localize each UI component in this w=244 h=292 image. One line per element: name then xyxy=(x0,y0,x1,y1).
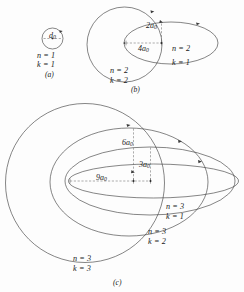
label-b-n2-k1-n: n = 2 xyxy=(172,45,190,54)
label-a-k1: k = 1 xyxy=(37,61,55,70)
label-3a0-sub: 0 xyxy=(147,163,150,169)
label-4a0-sub: 0 xyxy=(146,47,149,53)
panel-b-group xyxy=(87,7,218,82)
focus-dot-b-nucleus xyxy=(161,42,163,44)
label-4a0-main: 4a xyxy=(138,44,146,53)
label-2a0: 2a0 xyxy=(146,22,157,30)
label-9a0-main: 9a xyxy=(96,173,104,182)
label-c-n3-k3-n: n = 3 xyxy=(73,255,91,264)
label-6a0: 6a0 xyxy=(122,139,133,147)
focus-dot-b-left xyxy=(124,42,126,44)
label-3a0: 3a0 xyxy=(139,161,150,169)
label-4a0: 4a0 xyxy=(138,45,149,53)
label-3a0-main: 3a xyxy=(139,160,147,169)
label-b-n2-k2-n: n = 2 xyxy=(110,67,128,76)
label-c-n3-k3-k: k = 3 xyxy=(73,265,91,274)
label-d0: d0 xyxy=(49,32,56,40)
direction-arrow-icon-c1 xyxy=(127,124,131,127)
orbit-n3-k3-circle xyxy=(6,104,165,263)
label-c-n3-k1-k: k = 1 xyxy=(166,213,184,222)
panel-c-group xyxy=(6,104,239,263)
label-6a0-sub: 0 xyxy=(130,141,133,147)
caption-b: (b) xyxy=(131,86,140,94)
caption-a: (a) xyxy=(45,71,54,79)
label-2a0-main: 2a xyxy=(146,21,154,30)
focus-dot-c-nucleus xyxy=(133,180,135,182)
label-c-n3-k2-k: k = 2 xyxy=(148,238,166,247)
direction-arrow-icon-c4 xyxy=(131,170,135,173)
label-c-n3-k2-n: n = 3 xyxy=(148,228,166,237)
direction-arrow-icon-b1 xyxy=(151,10,155,13)
label-9a0: 9a0 xyxy=(96,174,107,182)
label-b-n2-k2-k: k = 2 xyxy=(110,77,128,86)
sommerfeld-orbit-figure: d0 n = 1 k = 1 (a) 2a0 4a0 n = 2 k = 1 n… xyxy=(0,0,244,292)
label-c-n3-k1-n: n = 3 xyxy=(166,203,184,212)
label-2a0-sub: 0 xyxy=(154,24,157,30)
label-d0-sub: 0 xyxy=(53,34,56,40)
label-b-n2-k1-k: k = 1 xyxy=(172,59,190,68)
focus-dot-c-right xyxy=(150,180,152,182)
label-9a0-sub: 0 xyxy=(104,176,107,182)
direction-arrow-icon-b2 xyxy=(159,20,163,23)
direction-arrow-icon-b3 xyxy=(196,22,200,25)
label-6a0-main: 6a xyxy=(122,138,130,147)
caption-c: (c) xyxy=(113,279,121,287)
